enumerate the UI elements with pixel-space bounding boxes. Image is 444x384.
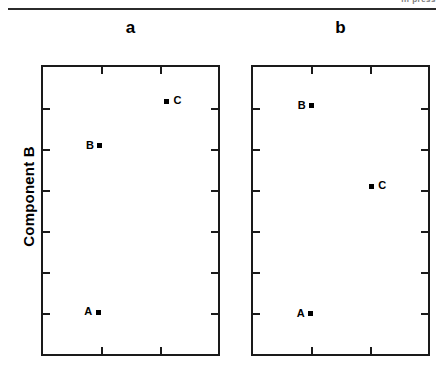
y-tick-right-b-3 <box>421 190 428 192</box>
x-tick-bottom-a-1 <box>101 347 103 354</box>
x-tick-bottom-b-2 <box>370 347 372 354</box>
data-point-marker <box>369 184 374 189</box>
data-point-label-B: B <box>86 140 94 151</box>
y-tick-left-b-6 <box>253 313 260 315</box>
data-point-marker <box>308 311 313 316</box>
x-tick-top-a-1 <box>101 67 103 74</box>
y-tick-right-b-6 <box>421 313 428 315</box>
x-tick-bottom-a-2 <box>160 347 162 354</box>
y-tick-right-a-3 <box>211 190 218 192</box>
y-tick-left-a-2 <box>43 149 50 151</box>
y-tick-right-a-6 <box>211 313 218 315</box>
x-tick-bottom-b-1 <box>311 347 313 354</box>
y-tick-right-b-1 <box>421 108 428 110</box>
data-point-label-B: B <box>298 100 306 111</box>
y-tick-left-a-6 <box>43 313 50 315</box>
y-tick-right-a-1 <box>211 108 218 110</box>
x-tick-top-b-2 <box>370 67 372 74</box>
y-tick-right-a-4 <box>211 231 218 233</box>
running-head-text: in press <box>352 0 436 5</box>
panel-a: ABC <box>41 65 220 356</box>
y-tick-right-a-5 <box>211 272 218 274</box>
x-tick-top-a-2 <box>160 67 162 74</box>
data-point-label-C: C <box>173 95 181 106</box>
panel-label-b: b <box>251 18 430 38</box>
data-point-marker <box>309 103 314 108</box>
data-point-marker <box>96 310 101 315</box>
data-point-label-A: A <box>84 306 92 317</box>
y-tick-right-b-5 <box>421 272 428 274</box>
y-tick-left-a-1 <box>43 108 50 110</box>
panel-label-a: a <box>41 18 220 38</box>
data-point-label-A: A <box>297 308 305 319</box>
data-point-label-C: C <box>378 180 386 191</box>
header-divider <box>8 8 436 10</box>
y-tick-right-a-2 <box>211 149 218 151</box>
data-point-marker <box>97 143 102 148</box>
y-tick-left-b-1 <box>253 108 260 110</box>
figure-scatter-panels: in press Component B aABCbABC <box>0 0 444 384</box>
panel-b: ABC <box>251 65 430 356</box>
y-tick-left-b-3 <box>253 190 260 192</box>
y-tick-right-b-4 <box>421 231 428 233</box>
y-tick-left-b-2 <box>253 149 260 151</box>
y-tick-left-b-5 <box>253 272 260 274</box>
y-axis-title: Component B <box>20 117 37 277</box>
x-tick-top-b-1 <box>311 67 313 74</box>
y-tick-left-b-4 <box>253 231 260 233</box>
data-point-marker <box>164 99 169 104</box>
y-tick-left-a-4 <box>43 231 50 233</box>
y-tick-left-a-3 <box>43 190 50 192</box>
y-tick-right-b-2 <box>421 149 428 151</box>
y-tick-left-a-5 <box>43 272 50 274</box>
